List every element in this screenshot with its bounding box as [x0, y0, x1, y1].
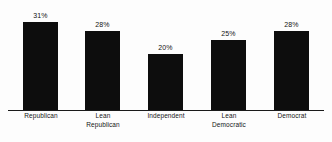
- bar-chart: 31% 28% 20% 25% 28% Republican LeanRepub…: [0, 0, 332, 142]
- bar-group-democrat: 28%: [274, 0, 309, 111]
- x-tick-label-line: Democrat: [254, 112, 330, 121]
- bar-value-label: 20%: [158, 43, 172, 52]
- x-axis-baseline: [8, 110, 324, 111]
- bar-independent: [148, 54, 183, 111]
- bar-democrat: [274, 31, 309, 111]
- bar-group-independent: 20%: [148, 0, 183, 111]
- bar-group-lean-democratic: 25%: [211, 0, 246, 111]
- x-axis-labels: Republican LeanRepublican Independent Le…: [0, 112, 332, 142]
- bar-republican: [23, 22, 58, 111]
- bar-value-label: 28%: [95, 20, 109, 29]
- x-tick-label-democrat: Democrat: [254, 112, 330, 121]
- x-tick-label-line: Republican: [65, 121, 141, 130]
- bar-value-label: 31%: [33, 11, 47, 20]
- bar-group-lean-republican: 28%: [85, 0, 120, 111]
- bar-group-republican: 31%: [23, 0, 58, 111]
- plot-area: 31% 28% 20% 25% 28%: [0, 0, 332, 111]
- bar-value-label: 25%: [221, 29, 235, 38]
- bar-lean-republican: [85, 31, 120, 111]
- bar-value-label: 28%: [284, 20, 298, 29]
- bar-lean-democratic: [211, 40, 246, 111]
- x-tick-label-line: Democratic: [191, 121, 267, 130]
